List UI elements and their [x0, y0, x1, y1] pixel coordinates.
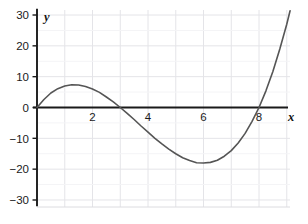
function-graph: 2468 3020100−10−20−30 y x [0, 0, 308, 224]
x-tick-label: 2 [89, 111, 95, 123]
plot-svg: 2468 3020100−10−20−30 y x [0, 0, 308, 224]
y-axis-tick-labels: 3020100−10−20−30 [9, 9, 29, 206]
x-tick-label: 8 [256, 111, 262, 123]
x-tick-label: 4 [145, 111, 152, 123]
y-axis-label: y [42, 10, 50, 24]
y-tick-label: −30 [9, 194, 29, 206]
x-axis-label: x [287, 110, 294, 124]
y-tick-label: 20 [16, 40, 29, 52]
plot-background [37, 10, 290, 207]
y-tick-label: −20 [9, 163, 29, 175]
y-tick-label: 10 [16, 71, 29, 83]
x-tick-label: 6 [200, 111, 206, 123]
y-tick-label: −10 [9, 133, 29, 145]
y-tick-label: 30 [16, 9, 29, 21]
y-tick-label: 0 [23, 102, 29, 114]
